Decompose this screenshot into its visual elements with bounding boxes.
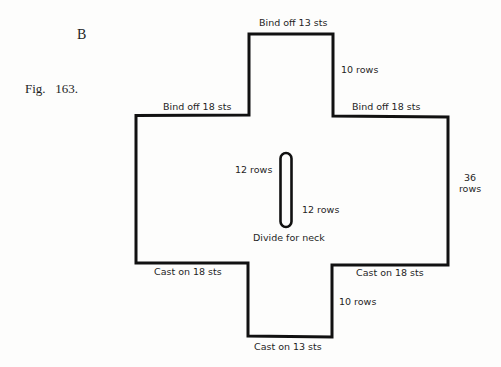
label-top-bind-off: Bind off 13 sts <box>259 17 327 28</box>
neck-slot <box>281 153 292 227</box>
label-side-rows-unit: rows <box>454 183 486 194</box>
label-right-bind-off: Bind off 18 sts <box>352 101 420 112</box>
label-side-rows: 36 rows <box>454 172 486 194</box>
label-top-rows: 10 rows <box>341 64 378 75</box>
label-neck-divide: Divide for neck <box>253 232 325 243</box>
label-right-cast-on: Cast on 18 sts <box>356 267 424 278</box>
label-left-cast-on: Cast on 18 sts <box>154 266 222 277</box>
label-bottom-rows: 10 rows <box>339 296 376 307</box>
sweater-pattern-outline <box>0 0 501 367</box>
label-side-rows-number: 36 <box>454 172 486 183</box>
label-left-bind-off: Bind off 18 sts <box>163 101 231 112</box>
label-neck-rows-upper: 12 rows <box>235 164 272 175</box>
label-neck-rows-lower: 12 rows <box>302 204 339 215</box>
label-bottom-cast-on: Cast on 13 sts <box>254 341 322 352</box>
